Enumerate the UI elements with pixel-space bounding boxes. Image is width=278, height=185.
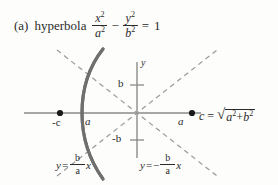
asym-left-x: x [86, 159, 91, 171]
asym-left-denominator: a [73, 166, 81, 176]
asym-right-x: x [176, 159, 181, 171]
radical-sign: √ [217, 107, 225, 124]
hyperbola-figure: (a) hyperbola x2 a2 − y2 b2 = 1 [0, 0, 278, 185]
label-vertex-right: a [178, 115, 184, 127]
equation-rhs: 1 [153, 18, 162, 34]
equals-operator: = [141, 18, 150, 34]
asym-right-denominator: a [164, 166, 172, 176]
x-denominator-exponent: 2 [101, 25, 105, 34]
minus-operator: − [110, 18, 119, 34]
asym-right-sign: − [153, 159, 159, 171]
label-b-positive: b [118, 77, 124, 89]
x-numerator-exponent: 2 [101, 10, 105, 19]
asym-left-equals: = [62, 159, 68, 171]
asym-left-fraction: b a [70, 153, 85, 176]
focus-right-dot [189, 110, 195, 116]
radicand: a2+b2 [225, 109, 255, 125]
y-numerator: y2 [124, 12, 137, 24]
x-numerator: x2 [93, 12, 106, 24]
asym-right-numerator: b [163, 153, 172, 163]
plot-area: y b -b -c a a c = √ a2+b2 y = b a [0, 46, 278, 185]
label-focus-left: -c [52, 116, 61, 128]
square-root: √ a2+b2 [217, 108, 255, 125]
c-equals: = [207, 109, 214, 124]
c-relation-formula: c = √ a2+b2 [199, 108, 255, 125]
asymptote-right-equation: y = − b a x [140, 153, 181, 176]
y-denominator: b2 [123, 27, 137, 39]
y-axis-label: y [141, 57, 145, 68]
asym-left-numerator: b [73, 153, 82, 163]
y-numerator-exponent: 2 [131, 10, 135, 19]
label-vertex-left: a [85, 115, 91, 127]
asym-right-y: y [140, 159, 145, 171]
asym-right-equals: = [146, 159, 152, 171]
hyperbola-equation: x2 a2 − y2 b2 = 1 [92, 12, 161, 39]
asym-left-y: y [56, 159, 61, 171]
x-term-fraction: x2 a2 [92, 12, 107, 39]
figure-part-label: (a) [14, 18, 28, 34]
figure-caption: (a) hyperbola x2 a2 − y2 b2 = 1 [14, 12, 162, 39]
x-denominator: a2 [93, 27, 107, 39]
label-b-negative: -b [112, 132, 121, 144]
y-term-fraction: y2 b2 [123, 12, 138, 39]
b-exponent: 2 [249, 109, 253, 118]
curve-name: hyperbola [34, 18, 86, 34]
asymptote-left-equation: y = b a x [56, 153, 91, 176]
asym-right-fraction: b a [160, 153, 175, 176]
c-symbol: c [199, 109, 204, 124]
y-denominator-exponent: 2 [131, 25, 135, 34]
